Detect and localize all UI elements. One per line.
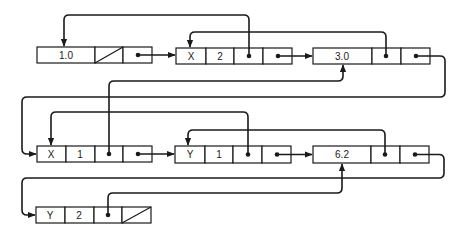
node-4-exp: 1 (77, 149, 83, 160)
node-6-value: 6.2 (335, 149, 349, 160)
arrow-n3-to-n4 (22, 56, 445, 154)
linked-list-diagram: 1.0 X 2 3.0 X 1 Y (0, 0, 463, 242)
node-3: 3.0 (313, 48, 430, 64)
arrow-n4-to-n3 (109, 65, 343, 154)
node-7: Y 2 (36, 207, 151, 223)
node-5-var: Y (187, 149, 194, 160)
node-2: X 2 (176, 48, 292, 64)
node-5-exp: 1 (216, 149, 222, 160)
node-4-var: X (48, 149, 55, 160)
node-6: 6.2 (313, 146, 429, 163)
node-4: X 1 (37, 146, 152, 162)
node-7-exp: 2 (76, 210, 82, 221)
node-7-var: Y (47, 210, 54, 221)
node-1-value: 1.0 (59, 50, 73, 61)
node-2-var: X (188, 51, 195, 62)
node-1: 1.0 (37, 47, 152, 63)
node-3-value: 3.0 (335, 51, 349, 62)
node-5: Y 1 (175, 146, 291, 163)
node-2-exp: 2 (217, 51, 223, 62)
edges (22, 15, 445, 215)
